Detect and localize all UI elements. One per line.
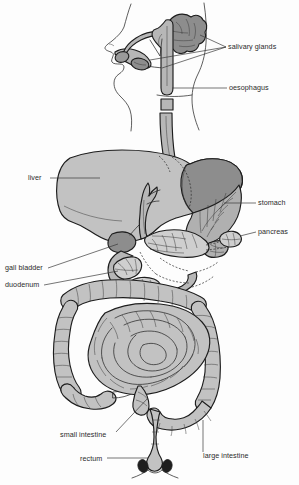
oesophagus-cut-mark	[161, 99, 173, 110]
label-duodenum: duodenum	[5, 280, 39, 289]
pancreas-tail	[220, 231, 242, 247]
anatomy-illustration: salivary glands oesophagus liver stomach…	[0, 0, 299, 485]
label-liver: liver	[28, 173, 42, 182]
label-pancreas: pancreas	[258, 227, 288, 236]
label-small-intestine: small intestine	[60, 430, 106, 439]
label-salivary-glands: salivary glands	[228, 42, 277, 51]
digestive-system-diagram: salivary glands oesophagus liver stomach…	[0, 0, 299, 485]
label-gall-bladder: gall bladder	[5, 263, 43, 272]
label-large-intestine: large intestine	[203, 451, 249, 460]
label-stomach: stomach	[258, 198, 286, 207]
label-rectum: rectum	[80, 454, 102, 463]
label-oesophagus: oesophagus	[229, 83, 269, 92]
